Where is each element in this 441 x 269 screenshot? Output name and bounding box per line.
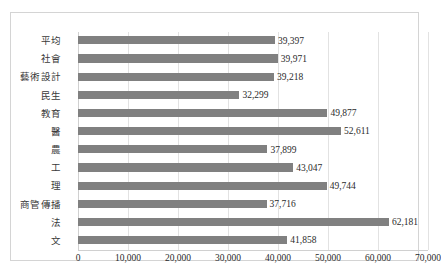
category-label: 教育 (41, 105, 62, 123)
category-label: 藝術設計 (20, 68, 62, 86)
category-label: 農 (51, 141, 62, 159)
category-label: 文 (51, 232, 62, 250)
chart-bar-row: 39,397平均 (78, 32, 428, 50)
bar-value-label: 37,899 (267, 141, 296, 159)
x-tick-label: 60,000 (365, 253, 391, 263)
bar (78, 127, 341, 135)
category-label: 商管傳播 (20, 196, 62, 214)
category-label: 工 (51, 159, 62, 177)
x-tick-label: 50,000 (315, 253, 341, 263)
bar-value-label: 37,716 (267, 195, 296, 213)
bar-value-label: 39,971 (278, 50, 307, 68)
x-tick-label: 20,000 (165, 253, 191, 263)
bar (78, 218, 389, 226)
category-label: 社會 (41, 50, 62, 68)
chart-bar-row: 32,299民生 (78, 87, 428, 105)
bar (78, 236, 287, 244)
chart-bar-row: 52,611醫 (78, 123, 428, 141)
x-tick-label: 0 (76, 253, 81, 263)
bar-value-label: 62,181 (389, 213, 418, 231)
bar-value-label: 49,877 (327, 104, 356, 122)
chart-bar-row: 49,877教育 (78, 105, 428, 123)
chart-bar-row: 41,858文 (78, 232, 428, 250)
category-label: 平均 (41, 32, 62, 50)
chart-bar-row: 37,716商管傳播 (78, 196, 428, 214)
chart-frame: 39,397平均39,971社會39,218藝術設計32,299民生49,877… (10, 12, 419, 261)
chart-bar-row: 62,181法 (78, 214, 428, 232)
bar (78, 91, 239, 99)
bar (78, 109, 327, 117)
bar (78, 182, 327, 190)
x-tick-label: 30,000 (215, 253, 241, 263)
x-tick-label: 40,000 (265, 253, 291, 263)
category-label: 醫 (51, 123, 62, 141)
bar-value-label: 43,047 (293, 159, 322, 177)
gridline (428, 32, 429, 250)
chart-bar-row: 39,218藝術設計 (78, 68, 428, 86)
bar (78, 163, 293, 171)
bar-value-label: 39,397 (275, 32, 304, 50)
bar (78, 36, 275, 44)
bar-value-label: 52,611 (341, 122, 370, 140)
chart-bar-row: 37,899農 (78, 141, 428, 159)
bar (78, 145, 267, 153)
category-label: 法 (51, 214, 62, 232)
bar (78, 200, 267, 208)
x-tick-label: 10,000 (115, 253, 141, 263)
x-tick-label: 70,000 (415, 253, 441, 263)
x-axis-line (78, 250, 428, 251)
bar-value-label: 32,299 (239, 86, 268, 104)
chart-bar-row: 43,047工 (78, 159, 428, 177)
category-label: 理 (51, 177, 62, 195)
chart-bar-row: 49,744理 (78, 177, 428, 195)
bar (78, 73, 274, 81)
chart-bar-row: 39,971社會 (78, 50, 428, 68)
bar (78, 54, 278, 62)
bar-value-label: 49,744 (327, 177, 356, 195)
category-label: 民生 (41, 87, 62, 105)
bar-value-label: 41,858 (287, 231, 316, 249)
bar-value-label: 39,218 (274, 68, 303, 86)
plot-area: 39,397平均39,971社會39,218藝術設計32,299民生49,877… (78, 32, 428, 250)
